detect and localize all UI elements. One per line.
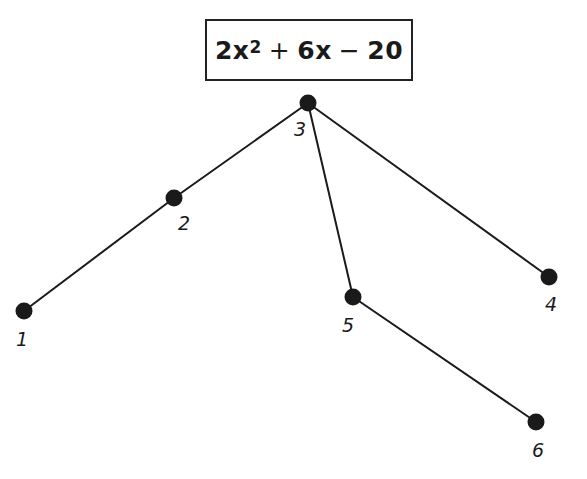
node-4 xyxy=(541,269,558,286)
node-2 xyxy=(166,190,183,207)
edge-3-5 xyxy=(308,103,353,297)
tree-diagram: 2x2 + 6x − 20 123456 xyxy=(0,0,587,479)
edge-2-1 xyxy=(24,198,174,311)
node-3 xyxy=(300,95,317,112)
edge-3-4 xyxy=(308,103,549,277)
node-label-2: 2 xyxy=(178,212,190,234)
node-label-1: 1 xyxy=(16,328,28,350)
node-1 xyxy=(16,303,33,320)
node-label-3: 3 xyxy=(294,118,306,140)
tree-graph xyxy=(0,0,587,479)
node-6 xyxy=(528,414,545,431)
edge-5-6 xyxy=(353,297,536,422)
node-label-4: 4 xyxy=(545,293,557,315)
node-label-5: 5 xyxy=(342,314,354,336)
tree-edges xyxy=(24,103,549,422)
node-label-6: 6 xyxy=(532,439,544,461)
edge-3-2 xyxy=(174,103,308,198)
node-5 xyxy=(345,289,362,306)
